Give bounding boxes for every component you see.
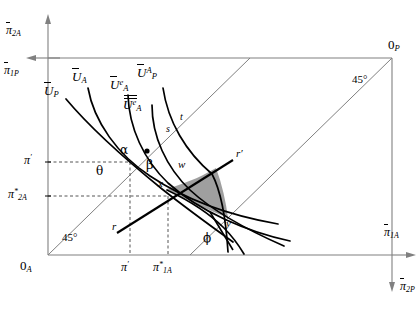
arrow-left-pi1p [26,55,36,61]
origin-0p-sub: P [395,43,400,53]
point-label-w: w [178,159,185,170]
tick-y2-sub: 2A [18,193,27,202]
curve-label-ubar-e-a: UeA [110,78,128,93]
origin-label-0p: 0P [388,38,400,53]
pi-1a-symbol: π [384,225,390,239]
arrow-down-pi2p [389,282,395,292]
ubar-ap-sub: P [152,71,157,81]
pi-2p-sub: 2P [406,285,415,294]
pi-1p-sub: 1P [10,69,19,78]
origin-label-0a: 0A [20,259,32,274]
ubar-a-symbol: U [72,69,81,84]
origin-0a-sub: A [27,264,32,274]
pi-2a-symbol: π [6,23,12,37]
ubar-ea-sub: A [123,83,128,93]
diagram-svg [0,0,419,315]
axis-group [30,18,412,288]
ubarbar-ea-symbol: U [123,97,132,112]
axis-label-pi-1a: π1A [384,226,399,240]
point-label-r: r [112,221,116,232]
tick-label-y-pi-star-2a: π*2A [8,188,27,202]
ubar-ea-symbol: U [110,77,119,92]
point-marker-beta [144,148,149,153]
point-label-beta: β [146,158,154,171]
curve-ubar-a [88,88,278,224]
point-label-phi: ϕ [203,232,211,244]
point-label-t: t [180,112,183,122]
tick-label-x-pi-prime: π′ [121,261,129,273]
ubarbar-ea-sub: A [136,103,141,113]
diagonals-group [48,58,392,255]
ubar-a-sub: A [81,75,86,85]
pi-2a-sub: 2A [12,29,21,38]
pi-2p-symbol: π [400,279,406,293]
arrow-up-pi2a [45,14,51,24]
curve-label-ubar-a-p: UAP [137,66,157,81]
angle-label-lower-left: 45° [62,232,77,243]
arrow-right-pi1a [406,252,416,258]
point-label-y: y [226,218,231,229]
tick-x2-sub: 1A [163,266,172,275]
point-label-r-prime: r′ [236,148,243,159]
ubar-p-symbol: U [44,83,53,98]
axis-label-pi-2p: π2P [400,280,415,294]
figure-canvas: π2A π1P π1A π2P 0A 0P 45° 45° π′ π*2A π′… [0,0,419,315]
curve-label-ubar-p: UP [44,84,59,99]
axis-arrowheads [26,14,416,292]
curve-label-ubar-a: UA [72,70,87,85]
curve-label-ubarbar-e-a: UeA [123,98,141,113]
tick-label-y-pi-prime: π′ [24,154,32,166]
point-label-x: x [158,178,163,189]
point-label-s: s [166,124,170,134]
point-label-theta: θ [96,165,103,177]
axis-label-pi-2a: π2A [6,24,21,38]
tick-x1-mark: ′ [127,260,129,269]
pi-1p-symbol: π [4,63,10,77]
point-label-alpha: α [120,144,128,156]
pi-1a-sub: 1A [390,231,399,240]
tick-label-x-pi-star-1a: π*1A [153,261,172,275]
ubar-ap-symbol: U [137,65,146,80]
tick-y1-mark: ′ [30,153,32,162]
ubar-p-sub: P [53,89,58,99]
angle-label-upper-right: 45° [352,74,367,85]
axis-label-pi-1p: π1P [4,64,19,78]
